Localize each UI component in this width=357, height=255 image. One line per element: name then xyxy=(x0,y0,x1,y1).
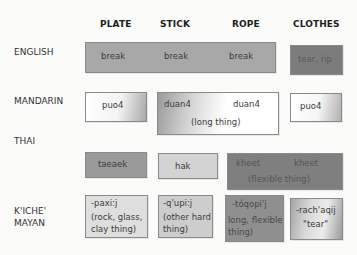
row-label-kiche-line2: MAYAN xyxy=(14,217,46,229)
cell-mandarin-puo4-clothes: puo4 xyxy=(290,93,342,122)
word-toqopij: -tóqopi'j xyxy=(232,199,267,209)
column-header-rope: ROPE xyxy=(232,19,260,29)
row-label-kiche-line1: K'ICHE' xyxy=(14,205,46,217)
note-long-flexible-thing: long, flexible thing) xyxy=(228,214,286,238)
word-break-stick: break xyxy=(164,51,188,61)
word-kheet-clothes: kheet xyxy=(294,158,318,168)
cell-thai-hak: hak xyxy=(158,153,218,179)
word-break-rope: break xyxy=(229,51,253,61)
word-rachaqij: -rach'aqij xyxy=(296,205,336,215)
row-label-kiche-mayan: K'ICHE' MAYAN xyxy=(14,205,46,229)
cell-kiche-rachaqij: -rach'aqij "tear" xyxy=(290,198,343,240)
column-header-stick: STICK xyxy=(160,19,190,29)
note-rock-glass-clay: (rock, glass, clay thing) xyxy=(91,211,149,235)
row-label-english: ENGLISH xyxy=(14,46,54,58)
cell-kiche-qupij: -q'upi:j (other hard thing) xyxy=(158,195,213,238)
row-label-mandarin: MANDARIN xyxy=(14,95,63,107)
note-long-thing: (long thing) xyxy=(191,117,241,127)
note-other-hard-thing: (other hard thing) xyxy=(163,211,215,235)
cell-english-break: break break break xyxy=(85,42,276,73)
cell-mandarin-duan4: duan4 duan4 (long thing) xyxy=(157,92,279,135)
word-puo4-plate: puo4 xyxy=(102,100,123,110)
word-hak: hak xyxy=(175,161,191,171)
cell-mandarin-puo4-plate: puo4 xyxy=(85,92,147,122)
word-break-plate: break xyxy=(101,51,125,61)
cell-english-tear: tear, rip xyxy=(290,45,343,75)
cell-kiche-paxij: -paxi:j (rock, glass, clay thing) xyxy=(85,195,148,238)
cell-kiche-toqopij: -tóqopi'j long, flexible thing) xyxy=(225,195,284,242)
word-qupij: -q'upi:j xyxy=(163,198,192,208)
cell-thai-taeaek: taeaek xyxy=(85,152,147,178)
word-puo4-clothes: puo4 xyxy=(300,101,321,111)
row-label-thai: THAI xyxy=(14,135,35,147)
column-header-clothes: CLOTHES xyxy=(293,19,340,29)
word-duan4-stick: duan4 xyxy=(164,99,191,109)
word-duan4-rope: duan4 xyxy=(233,99,260,109)
note-tear: "tear" xyxy=(303,219,328,229)
word-paxij: -paxi:j xyxy=(91,198,117,208)
cell-thai-kheet: kheet kheet (flexible thing) xyxy=(227,153,343,190)
column-header-plate: PLATE xyxy=(100,19,131,29)
note-flexible-thing: (flexible thing) xyxy=(248,174,310,184)
word-kheet-rope: kheet xyxy=(236,158,260,168)
word-taeaek: taeaek xyxy=(98,159,127,169)
word-tear-rip: tear, rip xyxy=(298,54,332,64)
